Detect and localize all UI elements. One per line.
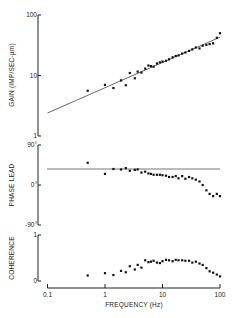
coherence-data-point bbox=[129, 265, 131, 267]
phase-data-point bbox=[129, 170, 131, 172]
gain-data-point bbox=[129, 72, 131, 74]
gain-data-point bbox=[216, 37, 218, 39]
phase-data-point bbox=[216, 193, 218, 195]
coherence-data-point bbox=[150, 261, 152, 263]
coherence-data-point bbox=[87, 274, 89, 276]
coherence-data-point bbox=[137, 264, 139, 266]
phase-panel: 90°0°-90° bbox=[25, 141, 221, 228]
phase-data-point bbox=[202, 184, 204, 186]
phase-data-point bbox=[177, 177, 179, 179]
coherence-data-point bbox=[134, 268, 136, 270]
gain-tick-label: 1 bbox=[33, 132, 37, 139]
gain-tick-label: 10 bbox=[30, 72, 38, 79]
gain-data-point bbox=[191, 48, 193, 50]
phase-data-point bbox=[175, 175, 177, 177]
phase-data-point bbox=[172, 176, 174, 178]
coherence-data-point bbox=[161, 260, 163, 262]
gain-data-point bbox=[161, 60, 163, 62]
gain-data-point bbox=[175, 55, 177, 57]
phase-data-point bbox=[120, 168, 122, 170]
gain-data-point bbox=[198, 47, 200, 49]
phase-axis-title: PHASE LEAD bbox=[8, 163, 15, 206]
coherence-data-point bbox=[144, 259, 146, 261]
phase-tick-label: 90° bbox=[27, 141, 37, 148]
coherence-data-point bbox=[202, 264, 204, 266]
coherence-data-point bbox=[195, 261, 197, 263]
gain-data-point bbox=[195, 46, 197, 48]
gain-axis-title: GAIN (IMP/SEC-µm) bbox=[8, 43, 16, 106]
coherence-data-point bbox=[168, 259, 170, 261]
phase-data-point bbox=[212, 195, 214, 197]
coherence-data-point bbox=[181, 259, 183, 261]
phase-data-point bbox=[191, 177, 193, 179]
gain-data-point bbox=[177, 54, 179, 56]
coherence-data-point bbox=[175, 259, 177, 261]
coherence-data-point bbox=[216, 273, 218, 275]
frequency-response-figure: 100101 90°0°-90° 10 0.1110100 GAIN (IMP/… bbox=[0, 0, 232, 318]
coherence-data-point bbox=[184, 260, 186, 262]
gain-data-point bbox=[87, 90, 89, 92]
gain-data-point bbox=[165, 60, 167, 62]
coherence-data-point bbox=[209, 270, 211, 272]
phase-data-point bbox=[150, 173, 152, 175]
phase-data-point bbox=[209, 193, 211, 195]
coherence-data-point bbox=[219, 275, 221, 277]
coherence-data-point bbox=[205, 267, 207, 269]
phase-data-point bbox=[147, 172, 149, 174]
frequency-tick-label: 1 bbox=[103, 291, 107, 298]
gain-data-point bbox=[159, 61, 161, 63]
gain-data-point bbox=[125, 84, 127, 86]
gain-data-point bbox=[184, 51, 186, 53]
phase-data-point bbox=[161, 174, 163, 176]
coherence-data-point bbox=[104, 272, 106, 274]
coherence-data-point bbox=[120, 270, 122, 272]
gain-data-point bbox=[112, 87, 114, 89]
phase-data-point bbox=[181, 175, 183, 177]
phase-tick-label: -90° bbox=[25, 221, 37, 228]
frequency-tick-label: 0.1 bbox=[43, 291, 52, 298]
coherence-data-point bbox=[177, 259, 179, 261]
coherence-data-point bbox=[156, 262, 158, 264]
phase-data-point bbox=[205, 189, 207, 191]
gain-data-point bbox=[219, 32, 221, 34]
gain-data-point bbox=[188, 50, 190, 52]
gain-data-point bbox=[104, 84, 106, 86]
gain-data-point bbox=[150, 65, 152, 67]
phase-data-point bbox=[168, 176, 170, 178]
phase-data-point bbox=[125, 167, 127, 169]
gain-data-point bbox=[147, 64, 149, 66]
frequency-tick-label: 10 bbox=[159, 291, 167, 298]
phase-data-point bbox=[188, 176, 190, 178]
phase-data-point bbox=[144, 171, 146, 173]
coherence-data-point bbox=[147, 261, 149, 263]
coherence-data-point bbox=[212, 272, 214, 274]
phase-data-point bbox=[219, 195, 221, 197]
phase-data-point bbox=[104, 173, 106, 175]
phase-data-point bbox=[156, 174, 158, 176]
phase-data-point bbox=[134, 169, 136, 171]
phase-tick-label: 0° bbox=[31, 181, 38, 188]
coherence-data-point bbox=[112, 274, 114, 276]
phase-data-point bbox=[112, 168, 114, 170]
coherence-tick-label: 0 bbox=[33, 277, 37, 284]
coherence-data-point bbox=[140, 267, 142, 269]
gain-tick-label: 100 bbox=[26, 11, 37, 18]
phase-data-point bbox=[87, 162, 89, 164]
gain-data-point bbox=[168, 58, 170, 60]
gain-data-point bbox=[212, 42, 214, 44]
gain-fit-line bbox=[48, 37, 221, 113]
coherence-data-point bbox=[152, 260, 154, 262]
phase-data-point bbox=[165, 175, 167, 177]
coherence-data-point bbox=[172, 260, 174, 262]
phase-data-point bbox=[152, 174, 154, 176]
gain-data-point bbox=[156, 62, 158, 64]
gain-data-point bbox=[144, 68, 146, 70]
gain-data-point bbox=[181, 53, 183, 55]
gain-panel: 100101 bbox=[26, 11, 221, 139]
gain-data-point bbox=[140, 71, 142, 73]
gain-data-point bbox=[137, 71, 139, 73]
coherence-data-point bbox=[191, 262, 193, 264]
coherence-data-point bbox=[125, 271, 127, 273]
gain-data-point bbox=[120, 79, 122, 81]
coherence-axis-title: COHERENCE bbox=[8, 236, 15, 280]
